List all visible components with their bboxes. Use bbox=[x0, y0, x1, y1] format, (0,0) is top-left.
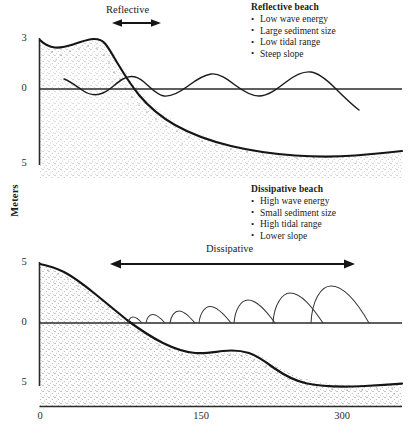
legend-item-label: Large sediment size bbox=[260, 26, 336, 36]
breaker-4 bbox=[199, 307, 231, 324]
legend-item-label: High tidal range bbox=[260, 219, 322, 229]
legend-item: •Large sediment size bbox=[260, 26, 336, 38]
arrow-reflective-extent bbox=[112, 19, 161, 27]
breaking-waves-dissipative bbox=[128, 286, 369, 323]
arrow-dissipative-extent bbox=[110, 260, 355, 269]
y-tick-reflective-3: 3 bbox=[14, 32, 34, 43]
breaker-2 bbox=[146, 315, 165, 324]
legend-item: •Lower slope bbox=[260, 231, 336, 243]
breaker-5 bbox=[234, 300, 275, 323]
annotation-dissipative-label: Dissipative bbox=[206, 243, 253, 254]
legend-dissipative-title: Dissipative beach bbox=[251, 184, 336, 195]
bullet-icon: • bbox=[251, 230, 254, 242]
legend-item-label: Low tidal range bbox=[260, 37, 320, 47]
breaker-6 bbox=[273, 293, 323, 323]
legend-reflective: Reflective beach •Low wave energy •Large… bbox=[251, 2, 336, 60]
legend-item: •Steep slope bbox=[260, 49, 336, 61]
legend-item: •High wave energy bbox=[260, 196, 336, 208]
breaker-3 bbox=[170, 311, 195, 323]
legend-item: •Low tidal range bbox=[260, 37, 336, 49]
legend-item-label: Steep slope bbox=[260, 49, 304, 59]
bullet-icon: • bbox=[251, 25, 254, 37]
legend-dissipative-list: •High wave energy •Small sediment size •… bbox=[251, 196, 336, 242]
bullet-icon: • bbox=[251, 196, 254, 208]
panel-dissipative bbox=[40, 262, 403, 406]
panel-reflective bbox=[40, 38, 403, 178]
legend-item-label: Small sediment size bbox=[260, 208, 336, 218]
legend-item-label: High wave energy bbox=[260, 196, 329, 206]
legend-item: •Small sediment size bbox=[260, 208, 336, 220]
x-tick-0: 0 bbox=[31, 410, 49, 421]
x-tick-300: 300 bbox=[327, 410, 357, 421]
y-tick-dissipative-5-top: 5 bbox=[14, 256, 34, 267]
bullet-icon: • bbox=[251, 14, 254, 26]
bullet-icon: • bbox=[251, 37, 254, 49]
legend-dissipative: Dissipative beach •High wave energy •Sma… bbox=[251, 184, 336, 242]
annotation-reflective-label: Reflective bbox=[106, 4, 149, 15]
bullet-icon: • bbox=[251, 219, 254, 231]
beach-profile-figure: Meters 3 0 5 5 0 5 0 150 300 Reflective … bbox=[0, 0, 417, 436]
legend-item-label: Lower slope bbox=[260, 231, 307, 241]
legend-item: •High tidal range bbox=[260, 219, 336, 231]
bullet-icon: • bbox=[251, 48, 254, 60]
legend-item: •Low wave energy bbox=[260, 14, 336, 26]
legend-reflective-list: •Low wave energy •Large sediment size •L… bbox=[251, 14, 336, 60]
y-axis-title: Meters bbox=[9, 175, 20, 227]
y-tick-reflective-0: 0 bbox=[14, 82, 34, 93]
bullet-icon: • bbox=[251, 207, 254, 219]
sand-stipple-dissipative bbox=[40, 264, 402, 406]
figure-graphics bbox=[0, 0, 417, 436]
legend-reflective-title: Reflective beach bbox=[251, 2, 336, 13]
x-tick-150: 150 bbox=[186, 410, 216, 421]
sand-stipple-reflective bbox=[40, 39, 402, 178]
y-tick-dissipative-0: 0 bbox=[14, 316, 34, 327]
y-tick-reflective-5: 5 bbox=[14, 157, 34, 168]
y-tick-dissipative-5-bottom: 5 bbox=[14, 376, 34, 387]
legend-item-label: Low wave energy bbox=[260, 14, 328, 24]
